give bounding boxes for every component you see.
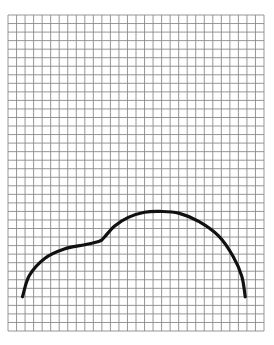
paper-background	[0, 0, 274, 345]
grid-paper-figure	[0, 0, 274, 345]
